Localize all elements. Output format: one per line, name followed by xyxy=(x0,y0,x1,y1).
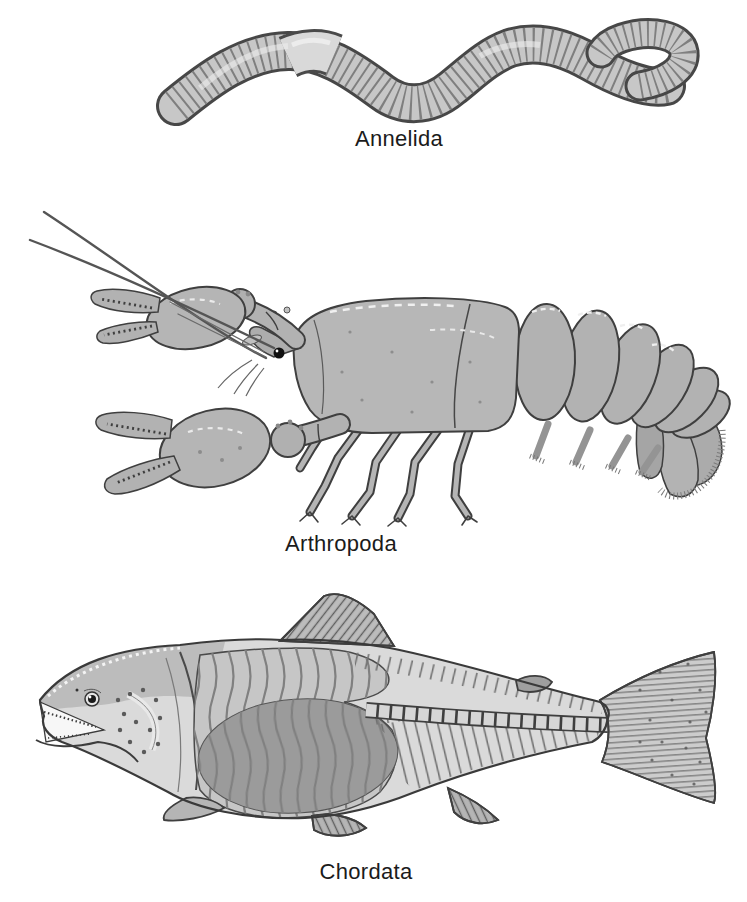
earthworm-body xyxy=(176,34,684,106)
worm-clitellum xyxy=(288,41,334,57)
zoology-figure-page: Annelida Arthropoda Chordata xyxy=(0,0,747,902)
fish-nostril xyxy=(76,689,79,692)
anal-fin xyxy=(448,788,498,823)
arthropoda-crayfish-illustration xyxy=(0,185,747,565)
arthropoda-label: Arthropoda xyxy=(285,532,397,556)
annelida-label: Annelida xyxy=(355,127,443,151)
annelida-earthworm-illustration xyxy=(0,0,747,180)
chordata-label: Chordata xyxy=(320,860,413,884)
chordata-fish-illustration xyxy=(0,575,747,865)
dorsal-fin xyxy=(280,594,394,646)
crayfish-eye xyxy=(274,348,285,359)
caudal-fin xyxy=(600,652,715,803)
fish-myomere-block xyxy=(194,648,402,820)
mouth-whiskers xyxy=(218,360,264,396)
crayfish-carapace xyxy=(294,298,519,433)
crayfish-lower-claw xyxy=(96,398,340,499)
